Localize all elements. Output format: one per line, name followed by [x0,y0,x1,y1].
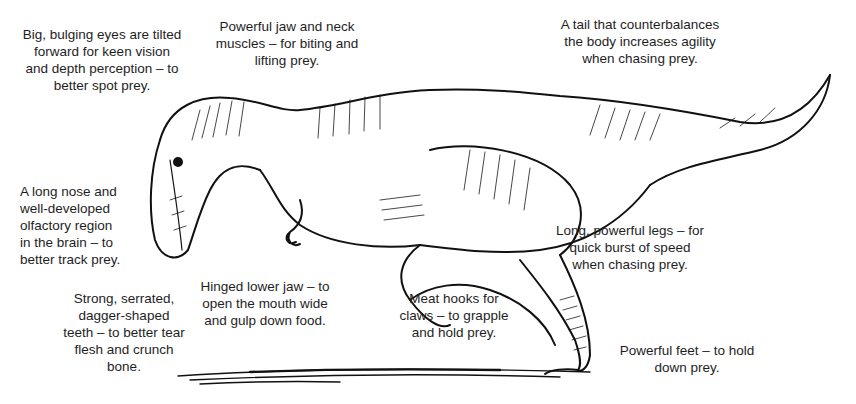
label-lower-jaw: Hinged lower jaw – to open the mouth wid… [200,278,330,329]
label-legs: Long, powerful legs – for quick burst of… [555,222,705,273]
label-teeth: Strong, serrated, dagger-shaped teeth – … [62,290,186,375]
label-eyes: Big, bulging eyes are tilted forward for… [22,26,182,94]
label-tail: A tail that counterbalances the body inc… [560,16,720,67]
label-feet: Powerful feet – to hold down prey. [612,342,762,376]
label-nose: A long nose and well-developed olfactory… [20,183,130,268]
label-claws: Meat hooks for claws – to grapple and ho… [398,290,510,341]
label-jaw-neck: Powerful jaw and neck muscles – for biti… [212,18,362,69]
ground-strokes [178,369,590,384]
